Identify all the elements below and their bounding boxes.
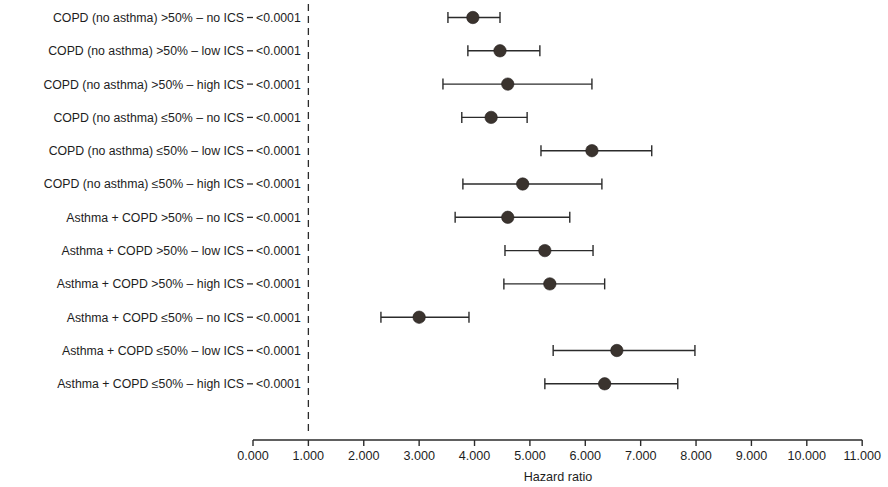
row-p-value: <0.0001 bbox=[256, 377, 301, 391]
row-category-label: COPD (no asthma) >50% – low ICS bbox=[48, 44, 244, 58]
row-category-label: Asthma + COPD ≤50% – no ICS bbox=[67, 311, 244, 325]
forest-plot-row: COPD (no asthma) ≤50% – low ICS<0.0001 bbox=[49, 144, 652, 158]
row-category-label: COPD (no asthma) >50% – no ICS bbox=[53, 11, 244, 25]
row-category-label: COPD (no asthma) ≤50% – high ICS bbox=[44, 177, 244, 191]
x-axis: 0.0001.0002.0003.0004.0005.0006.0007.000… bbox=[237, 4, 881, 463]
row-p-value: <0.0001 bbox=[256, 344, 301, 358]
x-axis-tick-label: 11.000 bbox=[843, 449, 881, 463]
row-category-label: Asthma + COPD ≤50% – low ICS bbox=[62, 344, 244, 358]
forest-plot-row: COPD (no asthma) >50% – no ICS<0.0001 bbox=[53, 11, 500, 25]
row-p-value: <0.0001 bbox=[256, 244, 301, 258]
row-category-label: COPD (no asthma) >50% – high ICS bbox=[43, 78, 244, 92]
hazard-ratio-point-marker bbox=[544, 278, 556, 290]
row-p-value: <0.0001 bbox=[256, 277, 301, 291]
hazard-ratio-point-marker bbox=[539, 244, 551, 256]
row-category-label: Asthma + COPD >50% – no ICS bbox=[66, 211, 244, 225]
forest-plot-row: Asthma + COPD ≤50% – low ICS<0.0001 bbox=[62, 344, 695, 358]
forest-plot-row: Asthma + COPD >50% – no ICS<0.0001 bbox=[66, 211, 569, 225]
row-category-label: COPD (no asthma) ≤50% – low ICS bbox=[49, 144, 244, 158]
forest-plot-canvas: COPD (no asthma) >50% – no ICS<0.0001COP… bbox=[0, 0, 888, 487]
forest-plot-rows: COPD (no asthma) >50% – no ICS<0.0001COP… bbox=[43, 11, 695, 391]
row-p-value: <0.0001 bbox=[256, 111, 301, 125]
x-axis-tick-label: 7.000 bbox=[625, 449, 657, 463]
row-p-value: <0.0001 bbox=[256, 177, 301, 191]
x-axis-tick-label: 1.000 bbox=[293, 449, 325, 463]
hazard-ratio-point-marker bbox=[502, 211, 514, 223]
x-axis-tick-label: 4.000 bbox=[459, 449, 491, 463]
x-axis-tick-label: 5.000 bbox=[514, 449, 546, 463]
hazard-ratio-point-marker bbox=[586, 145, 598, 157]
x-axis-tick-label: 3.000 bbox=[403, 449, 435, 463]
hazard-ratio-point-marker bbox=[502, 78, 514, 90]
forest-plot-row: COPD (no asthma) ≤50% – no ICS<0.0001 bbox=[53, 111, 527, 125]
x-axis-tick-label: 8.000 bbox=[680, 449, 712, 463]
x-axis-tick-label: 0.000 bbox=[237, 449, 269, 463]
x-axis-title: Hazard ratio bbox=[524, 470, 593, 484]
row-category-label: Asthma + COPD ≤50% – high ICS bbox=[57, 377, 244, 391]
row-category-label: COPD (no asthma) ≤50% – no ICS bbox=[53, 111, 244, 125]
row-p-value: <0.0001 bbox=[256, 44, 301, 58]
hazard-ratio-point-marker bbox=[598, 378, 610, 390]
forest-plot-row: Asthma + COPD ≤50% – high ICS<0.0001 bbox=[57, 377, 678, 391]
hazard-ratio-point-marker bbox=[467, 11, 479, 23]
forest-plot-row: COPD (no asthma) >50% – low ICS<0.0001 bbox=[48, 44, 540, 58]
row-p-value: <0.0001 bbox=[256, 211, 301, 225]
row-category-label: Asthma + COPD >50% – low ICS bbox=[62, 244, 244, 258]
hazard-ratio-point-marker bbox=[611, 344, 623, 356]
hazard-ratio-point-marker bbox=[517, 178, 529, 190]
x-axis-tick-label: 6.000 bbox=[570, 449, 602, 463]
forest-plot-row: COPD (no asthma) ≤50% – high ICS<0.0001 bbox=[44, 177, 602, 191]
hazard-ratio-point-marker bbox=[413, 311, 425, 323]
x-axis-tick-label: 9.000 bbox=[736, 449, 768, 463]
forest-plot-row: Asthma + COPD >50% – high ICS<0.0001 bbox=[57, 277, 605, 291]
x-axis-tick-label: 2.000 bbox=[348, 449, 380, 463]
row-p-value: <0.0001 bbox=[256, 11, 301, 25]
row-p-value: <0.0001 bbox=[256, 311, 301, 325]
hazard-ratio-point-marker bbox=[485, 111, 497, 123]
row-p-value: <0.0001 bbox=[256, 144, 301, 158]
row-p-value: <0.0001 bbox=[256, 78, 301, 92]
hazard-ratio-point-marker bbox=[494, 45, 506, 57]
forest-plot-row: COPD (no asthma) >50% – high ICS<0.0001 bbox=[43, 78, 592, 92]
x-axis-tick-label: 10.000 bbox=[788, 449, 827, 463]
forest-plot-row: Asthma + COPD >50% – low ICS<0.0001 bbox=[62, 244, 594, 258]
row-category-label: Asthma + COPD >50% – high ICS bbox=[57, 277, 244, 291]
forest-plot-row: Asthma + COPD ≤50% – no ICS<0.0001 bbox=[67, 311, 469, 325]
